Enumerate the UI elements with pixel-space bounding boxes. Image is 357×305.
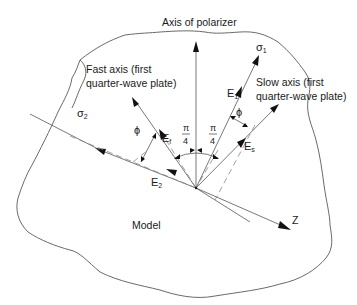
- sigma2-label: σ2: [77, 107, 88, 120]
- fast-axis-label-line2: quarter-wave plate): [86, 77, 176, 89]
- E2-arrow-icon: [166, 169, 177, 176]
- fast-axis-arrow-icon: [132, 97, 139, 107]
- pi4-arc-center-right-icon: [197, 148, 202, 153]
- polarizer-arrow-icon: [193, 41, 199, 52]
- z-axis-line: [196, 188, 285, 227]
- fast-axis-label-line1: Fast axis (first: [86, 63, 151, 75]
- pi4-right-numerator: π: [210, 123, 216, 133]
- dashed-line-low: [133, 150, 148, 162]
- phi-left-tick-icon: [141, 156, 145, 162]
- model-label: Model: [132, 219, 161, 231]
- sigma2-arrow-icon: [95, 148, 106, 155]
- Es-label: Es: [244, 140, 255, 153]
- phi-left-tick2-icon: [152, 133, 156, 139]
- slow-axis-line: [196, 108, 275, 188]
- polariscope-diagram: Axis of polarizer Fast axis (first quart…: [0, 0, 357, 305]
- pi4-right-denominator: 4: [210, 136, 215, 146]
- pi4-arc-right-icon: [213, 154, 219, 159]
- model-outline: [17, 31, 332, 298]
- lower-diagonal-line: [196, 188, 250, 222]
- origin-point: [195, 187, 197, 189]
- phi-right-label: ϕ: [236, 106, 242, 118]
- outline-detail: [72, 60, 86, 108]
- pi4-left-denominator: 4: [183, 136, 188, 146]
- sigma2-extension-line: [30, 114, 100, 150]
- pi4-left-numerator: π: [183, 123, 189, 133]
- phi-left-label: ϕ: [134, 124, 140, 136]
- sigma1-label: σ1: [256, 41, 267, 54]
- slow-axis-label-line1: Slow axis (first: [256, 76, 324, 88]
- slow-axis-label-line2: quarter-wave plate): [256, 90, 346, 102]
- E2-label: E2: [151, 176, 162, 189]
- z-axis-arrow-icon: [278, 221, 291, 230]
- sigma1-arrow-icon: [252, 55, 259, 66]
- polarizer-axis-label: Axis of polarizer: [162, 16, 237, 28]
- pi4-arc-center-left-icon: [190, 148, 195, 153]
- pi4-arc: [175, 153, 218, 158]
- dashed-line-mid: [166, 140, 196, 188]
- Ef-label: Ef: [162, 132, 171, 145]
- E1-label: E1: [227, 87, 238, 100]
- z-axis-label: Z: [292, 214, 299, 226]
- sigma1-line: [196, 60, 257, 188]
